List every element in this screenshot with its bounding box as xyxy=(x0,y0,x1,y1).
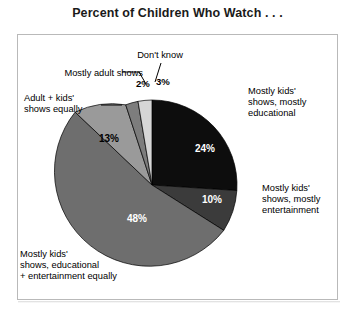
callout-adult-kids-equally: Adult + kids' shows equally xyxy=(24,93,118,115)
callout-kids-entertainment: Mostly kids' shows, mostly entertainment xyxy=(262,183,354,216)
slice-value-dont-know: 3% xyxy=(156,76,170,87)
callout-kids-educational: Mostly kids' shows, mostly educational xyxy=(248,86,348,119)
slice-value-kids-both-equally: 48% xyxy=(127,213,147,224)
slice-value-kids-entertainment: 10% xyxy=(202,194,222,205)
callout-kids-both-equally: Mostly kids' shows, educational + entert… xyxy=(20,249,165,282)
callout-dont-know: Don't know xyxy=(120,50,200,61)
callout-mostly-adult-shows: Mostly adult shows xyxy=(31,68,143,79)
slice-value-mostly-adult-shows: 2% xyxy=(136,78,150,89)
slice-value-kids-educational: 24% xyxy=(195,143,215,154)
slice-value-adult-kids-equally: 13% xyxy=(99,133,119,144)
